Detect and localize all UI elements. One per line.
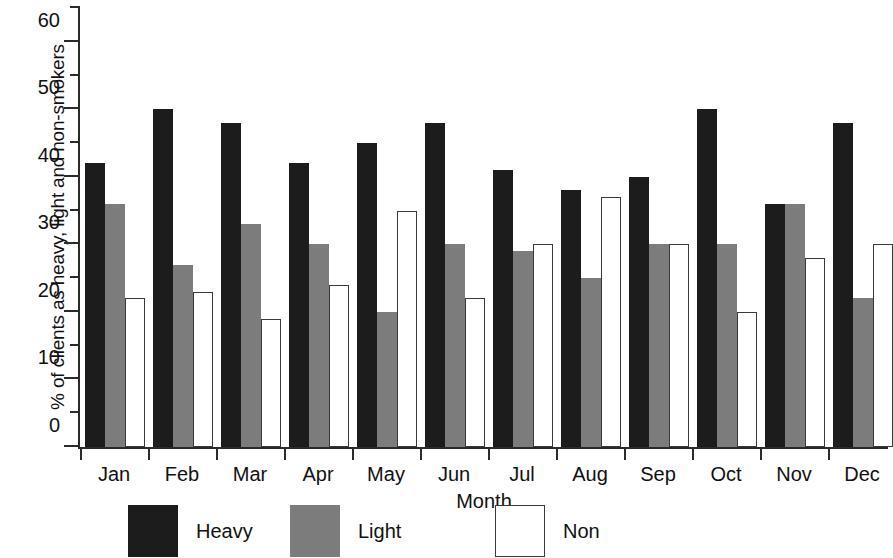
- bar-non: [737, 312, 757, 447]
- legend-item-heavy[interactable]: Heavy: [128, 504, 253, 558]
- bar-light: [717, 244, 737, 447]
- y-tick-major: [64, 310, 80, 312]
- y-tick-minor: [70, 209, 80, 211]
- bar-heavy: [153, 109, 173, 447]
- bar-non: [669, 244, 689, 447]
- bar-light: [853, 298, 873, 447]
- bar-group: [357, 8, 417, 447]
- x-tick-label: Mar: [233, 463, 267, 486]
- bar-group: [153, 8, 213, 447]
- y-tick-major: [64, 175, 80, 177]
- x-tick-label: Dec: [844, 463, 880, 486]
- x-tick: [284, 447, 286, 460]
- legend-swatch-light: [290, 505, 340, 557]
- bar-group: [221, 8, 281, 447]
- y-tick-minor: [70, 276, 80, 278]
- y-tick-label: 60: [38, 8, 60, 31]
- bar-light: [377, 312, 397, 447]
- bar-group: [85, 8, 145, 447]
- bar-group: [493, 8, 553, 447]
- x-tick-label: Apr: [302, 463, 333, 486]
- legend-label: Non: [563, 520, 600, 543]
- y-tick-minor: [70, 6, 80, 8]
- x-tick: [420, 447, 422, 460]
- y-tick-label: 30: [38, 211, 60, 234]
- x-tick: [624, 447, 626, 460]
- bar-group: [697, 8, 757, 447]
- x-tick-label: May: [367, 463, 405, 486]
- bar-group: [833, 8, 893, 447]
- bar-heavy: [357, 143, 377, 447]
- y-tick-label: 20: [38, 278, 60, 301]
- y-tick-major: [64, 40, 80, 42]
- bar-non: [261, 319, 281, 447]
- bar-light: [581, 278, 601, 447]
- x-tick: [760, 447, 762, 460]
- bar-light: [241, 224, 261, 447]
- legend-item-non[interactable]: Non: [495, 504, 600, 558]
- chart-legend: HeavyLightNon: [0, 504, 888, 558]
- x-tick-label: Jul: [509, 463, 535, 486]
- bar-non: [533, 244, 553, 447]
- legend-label: Heavy: [196, 520, 253, 543]
- x-tick: [556, 447, 558, 460]
- y-tick-label: 40: [38, 143, 60, 166]
- y-tick-major: [64, 242, 80, 244]
- x-tick-label: Aug: [572, 463, 608, 486]
- y-tick-major: [64, 377, 80, 379]
- y-tick-minor: [70, 141, 80, 143]
- bar-heavy: [289, 163, 309, 447]
- bar-heavy: [85, 163, 105, 447]
- bar-group: [629, 8, 689, 447]
- bar-group: [289, 8, 349, 447]
- bar-heavy: [221, 123, 241, 447]
- bar-heavy: [425, 123, 445, 447]
- bar-non: [125, 298, 145, 447]
- x-tick: [80, 447, 82, 460]
- y-tick-major: [64, 107, 80, 109]
- bar-light: [309, 244, 329, 447]
- x-tick: [148, 447, 150, 460]
- y-tick-minor: [70, 74, 80, 76]
- bar-heavy: [697, 109, 717, 447]
- x-tick: [692, 447, 694, 460]
- y-tick-major: [64, 445, 80, 447]
- bar-group: [561, 8, 621, 447]
- plot-area: 0102030405060 JanFebMarAprMayJunJulAugSe…: [80, 8, 888, 447]
- bar-heavy: [561, 190, 581, 447]
- bar-light: [105, 204, 125, 447]
- bar-non: [805, 258, 825, 447]
- bar-group: [765, 8, 825, 447]
- bar-light: [513, 251, 533, 447]
- x-tick: [488, 447, 490, 460]
- x-tick: [828, 447, 830, 460]
- bar-non: [465, 298, 485, 447]
- bar-heavy: [765, 204, 785, 447]
- x-tick-label: Nov: [776, 463, 812, 486]
- bar-non: [193, 292, 213, 447]
- y-tick-label: 50: [38, 76, 60, 99]
- bar-non: [601, 197, 621, 447]
- x-tick-label: Oct: [710, 463, 741, 486]
- legend-item-light[interactable]: Light: [290, 504, 401, 558]
- bar-light: [649, 244, 669, 447]
- y-tick-label: 0: [49, 414, 60, 437]
- bar-heavy: [629, 177, 649, 447]
- x-tick-label: Sep: [640, 463, 676, 486]
- legend-swatch-heavy: [128, 505, 178, 557]
- y-tick-minor: [70, 411, 80, 413]
- bar-light: [785, 204, 805, 447]
- x-tick-label: Feb: [165, 463, 199, 486]
- bar-heavy: [833, 123, 853, 447]
- bar-heavy: [493, 170, 513, 447]
- bar-non: [397, 211, 417, 447]
- x-axis-line: [78, 447, 888, 449]
- x-tick: [352, 447, 354, 460]
- bar-group: [425, 8, 485, 447]
- x-tick-label: Jun: [438, 463, 470, 486]
- bar-non: [329, 285, 349, 447]
- legend-label: Light: [358, 520, 401, 543]
- x-tick: [216, 447, 218, 460]
- x-tick-label: Jan: [98, 463, 130, 486]
